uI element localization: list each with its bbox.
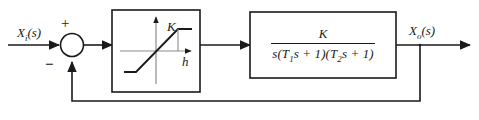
summing-junction-minus-sign: −: [45, 57, 54, 72]
transfer-function-denominator: s(T1s + 1)(T2s + 1): [272, 44, 373, 64]
summing-junction-plus-sign: +: [61, 16, 69, 31]
den-part-close2: s + 1): [342, 46, 374, 61]
transfer-function-expression: K s(T1s + 1)(T2s + 1): [252, 18, 394, 72]
summing-junction-circle: [61, 34, 84, 57]
input-symbol: X: [17, 25, 25, 40]
block-diagram-figure: Xi(s) Xo(s) + − K h K s(T1s + 1)(T2s + 1…: [0, 0, 479, 120]
saturation-breakpoint-label: h: [182, 55, 189, 68]
output-signal-label: Xo(s): [409, 24, 435, 41]
den-part-open2: (T: [326, 46, 338, 61]
diagram-canvas: [0, 0, 479, 120]
output-argument: (s): [421, 23, 435, 38]
output-symbol: X: [409, 23, 417, 38]
den-part-open1: (T: [277, 46, 289, 61]
saturation-gain-label: K: [167, 20, 176, 33]
den-part-close1: s + 1): [294, 46, 326, 61]
transfer-function-numerator: K: [319, 26, 328, 43]
input-argument: (s): [27, 25, 41, 40]
input-signal-label: Xi(s): [17, 26, 41, 43]
